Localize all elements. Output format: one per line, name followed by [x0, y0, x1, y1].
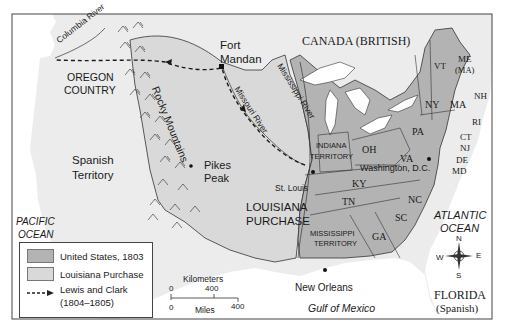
scale-mi-label: Miles — [195, 306, 215, 315]
label-florida-2: (Spanish) — [436, 303, 478, 314]
label-louisiana-2: PURCHASE — [246, 216, 310, 228]
label-oregon-2: COUNTRY — [64, 85, 116, 96]
label-oregon-1: OREGON — [67, 72, 114, 83]
label-ny: NY — [425, 100, 439, 110]
compass-w: W — [436, 254, 444, 262]
label-de: DE — [456, 156, 468, 165]
label-pikes-peak-1: Pikes — [204, 160, 231, 171]
label-pacific-2: OCEAN — [18, 230, 54, 240]
label-indiana-1: INDIANA — [316, 142, 346, 150]
label-pacific-1: PACIFIC — [16, 217, 55, 227]
dashed-arrow-icon — [27, 289, 55, 297]
label-canada: CANADA (BRITISH) — [302, 35, 410, 47]
label-new-orleans: New Orleans — [295, 283, 353, 293]
label-ga: GA — [372, 232, 386, 242]
label-fort-mandan-2: Mandan — [220, 54, 262, 66]
label-nh: NH — [474, 92, 487, 101]
map-legend: United States, 1803 Louisiana Purchase L… — [19, 242, 153, 318]
label-st-louis: St. Louis — [275, 184, 308, 193]
label-atlantic-2: OCEAN — [440, 223, 479, 234]
compass-n: N — [456, 235, 462, 243]
label-indiana-2: TERRITORY — [310, 153, 353, 161]
label-spanish-2: Territory — [72, 170, 114, 182]
label-md: MD — [452, 167, 467, 176]
legend-swatch-us-1803 — [27, 249, 54, 263]
label-nj: NJ — [460, 144, 470, 153]
label-oh: OH — [362, 145, 376, 155]
washington-marker — [427, 157, 431, 161]
legend-swatch-louisiana — [27, 267, 54, 281]
label-pikes-peak-2: Peak — [204, 173, 229, 184]
label-ri: RI — [472, 118, 481, 127]
label-pa: PA — [412, 127, 424, 137]
label-spanish-1: Spanish — [72, 155, 114, 167]
label-vt: VT — [434, 62, 446, 71]
scale-km-label: Kilometers — [183, 275, 223, 284]
label-florida-1: FLORIDA — [434, 289, 486, 301]
st-louis-marker — [311, 170, 315, 174]
legend-label-lewis-clark-years: (1804–1805) — [60, 297, 114, 308]
scale-km-400: 400 — [205, 285, 218, 293]
label-me: ME — [458, 55, 472, 64]
scale-km-zero: 0 — [169, 285, 173, 293]
label-louisiana-1: LOUISIANA — [246, 202, 307, 214]
legend-label-us-1803: United States, 1803 — [60, 251, 143, 262]
label-mississippi-2: TERRITORY — [314, 240, 357, 248]
compass-s: S — [456, 272, 461, 280]
label-sc: SC — [395, 213, 407, 223]
legend-label-lewis-clark: Lewis and Clark — [60, 284, 128, 295]
label-washington: Washington, D.C. — [360, 164, 430, 173]
label-mississippi-1: MISSISSIPPI — [310, 230, 355, 238]
scale-mi-zero: 0 — [169, 304, 173, 312]
new-orleans-marker — [323, 268, 327, 272]
compass-e: E — [476, 252, 481, 260]
label-tn: TN — [342, 197, 355, 207]
label-fort-mandan-1: Fort — [220, 40, 240, 52]
legend-label-louisiana: Louisiana Purchase — [60, 269, 143, 280]
label-atlantic-1: ATLANTIC — [434, 210, 486, 221]
label-nc: NC — [408, 195, 422, 205]
label-ct: CT — [460, 133, 472, 142]
label-gulf-of-mexico: Gulf of Mexico — [308, 303, 375, 314]
pikes-peak-marker — [189, 164, 193, 168]
label-me-ma: (MA) — [455, 66, 474, 75]
label-ma: MA — [450, 100, 466, 110]
scale-mi-400: 400 — [231, 303, 244, 311]
label-ky: KY — [352, 179, 366, 189]
